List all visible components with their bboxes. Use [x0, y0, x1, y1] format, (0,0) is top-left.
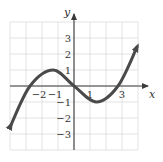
y-tick-label: 3 [65, 33, 71, 44]
x-axis-label: x [149, 88, 156, 101]
y-axis-label: y [63, 6, 71, 19]
y-tick-label: −2 [56, 113, 71, 124]
x-tick-label: −2 [32, 89, 47, 100]
function-graph: x y −2−113 321−1−2−3 [0, 0, 163, 162]
x-tick-label: 3 [119, 89, 125, 100]
y-tick-label: 2 [65, 49, 71, 60]
y-tick-label: −3 [56, 129, 71, 140]
y-tick-label: 1 [65, 65, 71, 76]
y-tick-label: −1 [56, 97, 71, 108]
